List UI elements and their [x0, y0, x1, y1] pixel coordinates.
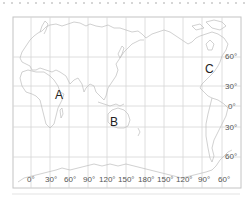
latitude-label: 30°	[225, 83, 237, 91]
latitude-label: 30°	[225, 124, 237, 132]
latitude-label: 60°	[225, 153, 237, 161]
latitude-label: 60°	[225, 53, 237, 61]
longitude-label: 120°	[176, 176, 193, 184]
bottom-band	[12, 193, 240, 195]
longitude-label: 150°	[157, 176, 174, 184]
longitude-label: 120°	[99, 176, 116, 184]
longitude-label: 180°	[138, 176, 155, 184]
longitude-label: 150°	[118, 176, 135, 184]
point-label-b: B	[110, 116, 118, 128]
longitude-label: 30°	[45, 176, 57, 184]
point-label-a: A	[55, 89, 63, 101]
latitude-label: 0°	[228, 103, 236, 111]
longitude-gridlines	[31, 17, 222, 188]
world-map	[0, 0, 250, 199]
longitude-label: 90°	[83, 176, 95, 184]
longitude-label: 90°	[198, 176, 210, 184]
map-frame	[13, 17, 241, 188]
point-label-c: C	[205, 63, 214, 75]
longitude-label: 0°	[27, 176, 35, 184]
longitude-label: 60°	[64, 176, 76, 184]
longitude-label: 60°	[218, 176, 230, 184]
